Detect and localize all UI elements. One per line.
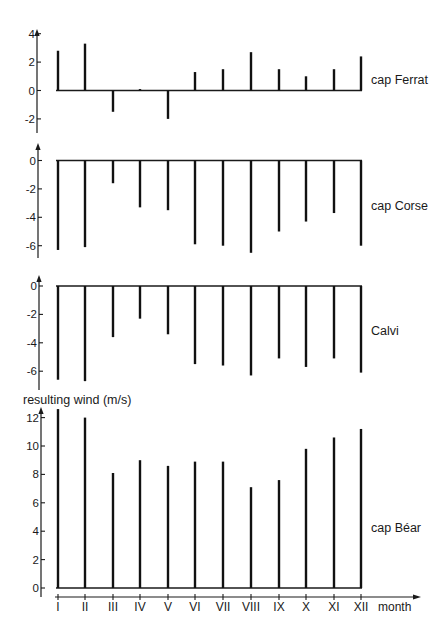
chart-canvas: 420-2cap Ferrat0-2-4-6cap Corse0-2-4-6Ca… bbox=[0, 0, 447, 631]
month-label-IV: IV bbox=[134, 600, 145, 614]
y-tick-label: 2 bbox=[29, 56, 35, 68]
x-axis-arrow-icon bbox=[413, 594, 421, 599]
month-label-VII: VII bbox=[216, 600, 231, 614]
wind-figure: 420-2cap Ferrat0-2-4-6cap Corse0-2-4-6Ca… bbox=[0, 0, 447, 631]
y-tick-label: 0 bbox=[31, 280, 37, 292]
month-label-XII: XII bbox=[354, 600, 369, 614]
month-label-V: V bbox=[164, 600, 172, 614]
month-axis: IIIIIIIVVVIVIIVIIIIXXXIXII bbox=[55, 594, 421, 614]
station-label: cap Corse bbox=[371, 199, 428, 213]
panel-calvi: 0-2-4-6Calvi bbox=[27, 275, 399, 390]
station-label: Calvi bbox=[371, 324, 399, 338]
y-axis-arrow-icon bbox=[34, 29, 39, 36]
month-label-XI: XI bbox=[328, 600, 339, 614]
panel-cap-ferrat: 420-2cap Ferrat bbox=[25, 28, 429, 133]
y-tick-label: -4 bbox=[26, 211, 37, 223]
y-tick-label: 12 bbox=[26, 412, 39, 424]
month-label-VI: VI bbox=[189, 600, 200, 614]
month-label-II: II bbox=[82, 600, 89, 614]
month-label-VIII: VIII bbox=[242, 600, 260, 614]
y-axis-arrow-icon bbox=[35, 143, 40, 150]
y-tick-label: -6 bbox=[27, 365, 37, 377]
y-tick-label: -2 bbox=[27, 308, 37, 320]
month-label-III: III bbox=[108, 600, 118, 614]
station-label: cap Béar bbox=[371, 521, 421, 535]
y-axis-arrow-icon bbox=[38, 407, 43, 414]
y-tick-label: -2 bbox=[25, 113, 35, 125]
y-tick-label: 8 bbox=[33, 468, 39, 480]
y-tick-label: -6 bbox=[26, 240, 36, 252]
station-panels: 420-2cap Ferrat0-2-4-6cap Corse0-2-4-6Ca… bbox=[25, 28, 429, 597]
station-label: cap Ferrat bbox=[371, 73, 428, 87]
month-label-IX: IX bbox=[273, 600, 284, 614]
y-tick-label: 0 bbox=[33, 582, 39, 594]
y-tick-label: 4 bbox=[29, 28, 36, 40]
y-tick-label: -2 bbox=[26, 183, 36, 195]
y-tick-label: 6 bbox=[33, 497, 39, 509]
panel-cap-corse: 0-2-4-6cap Corse bbox=[26, 143, 428, 258]
y-tick-label: 10 bbox=[26, 440, 39, 452]
month-label-X: X bbox=[302, 600, 310, 614]
month-label-I: I bbox=[56, 600, 59, 614]
y-tick-label: -4 bbox=[27, 337, 38, 349]
y-axis-title: resulting wind (m/s) bbox=[23, 393, 131, 407]
y-axis-arrow-icon bbox=[36, 275, 41, 282]
y-tick-label: 0 bbox=[29, 85, 35, 97]
panel-cap-bear: 024681012cap Béar bbox=[26, 407, 421, 597]
y-tick-label: 2 bbox=[33, 554, 39, 566]
y-tick-label: 4 bbox=[33, 525, 40, 537]
y-tick-label: 0 bbox=[30, 155, 36, 167]
x-axis-title: month bbox=[378, 600, 411, 614]
